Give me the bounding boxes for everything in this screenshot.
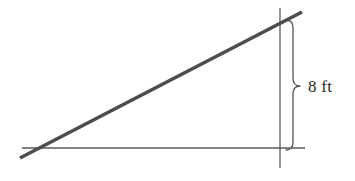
geometry-figure: 8 ft <box>0 0 355 181</box>
height-dimension-label: 8 ft <box>308 78 332 95</box>
diagram-canvas <box>0 0 355 181</box>
figure-background <box>0 0 355 181</box>
